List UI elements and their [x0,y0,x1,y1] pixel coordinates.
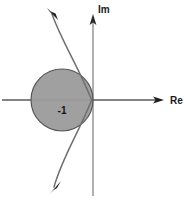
imaginary-axis-label: Im [98,4,110,15]
real-axis-label: Re [170,95,183,106]
disk-center-label: -1 [58,105,67,116]
figure-container: -1 Im Re [0,0,193,202]
stability-disk [31,69,93,131]
complex-plane-diagram: -1 Im Re [0,0,193,202]
